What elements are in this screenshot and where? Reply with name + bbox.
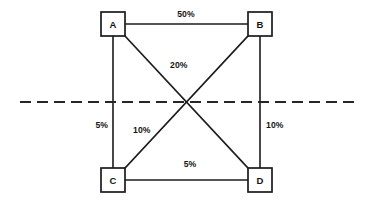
node-b: B [248,12,272,36]
node-d: D [248,168,272,192]
edge-label-a-b: 50% [177,9,195,19]
edge-label-b-d: 10% [266,120,284,130]
node-a: A [101,12,125,36]
edge-label-a-d: 20% [170,60,188,70]
edge-group [113,24,260,180]
network-diagram: A B C D 50% 20% 5% 10% 10% 5% [0,0,373,204]
edge-label-c-d: 5% [184,159,197,169]
node-d-label: D [257,175,264,186]
diagram-canvas: A B C D 50% 20% 5% 10% 10% 5% [0,0,373,204]
edge-label-c-b: 10% [133,125,151,135]
edge-label-a-c: 5% [95,120,108,130]
node-c-label: C [110,175,117,186]
node-b-label: B [257,19,264,30]
node-c: C [101,168,125,192]
node-a-label: A [110,19,117,30]
